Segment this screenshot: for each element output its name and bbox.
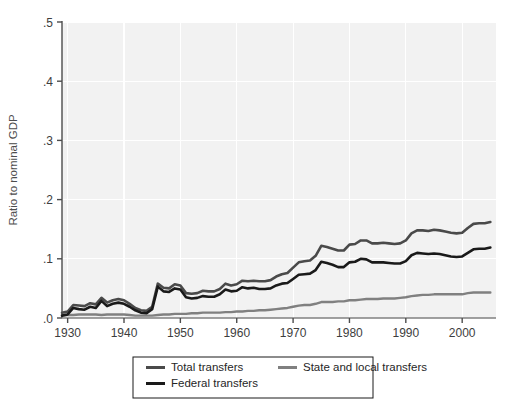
x-axis-tick-label: 2000 <box>449 326 476 340</box>
y-axis-title: Ratio to nominal GDP <box>7 114 19 226</box>
legend-label-federal-transfers: Federal transfers <box>171 377 258 389</box>
y-axis-tick-label: .5 <box>43 16 53 30</box>
legend-label-total-transfers: Total transfers <box>171 361 243 373</box>
plot-background <box>62 22 496 318</box>
x-axis-tick-label: 1940 <box>111 326 138 340</box>
x-axis-tick-label: 1970 <box>280 326 307 340</box>
x-axis-tick-label: 1990 <box>392 326 419 340</box>
y-axis-tick-label: .1 <box>43 252 53 266</box>
y-axis-tick-label: .0 <box>43 312 53 326</box>
y-axis-tick-label: .2 <box>43 193 53 207</box>
chart-figure: .0.1.2.3.4.5 193019401950196019701980199… <box>0 0 506 416</box>
transfers-ratio-line-chart: .0.1.2.3.4.5 193019401950196019701980199… <box>0 0 506 416</box>
y-axis-tick-label: .3 <box>43 134 53 148</box>
x-axis-tick-label: 1950 <box>167 326 194 340</box>
legend-label-state-and-local-transfers: State and local transfers <box>303 361 427 373</box>
x-axis-tick-label: 1980 <box>336 326 363 340</box>
x-axis-tick-label: 1930 <box>54 326 81 340</box>
y-axis-tick-label: .4 <box>43 75 53 89</box>
x-axis-tick-label: 1960 <box>223 326 250 340</box>
